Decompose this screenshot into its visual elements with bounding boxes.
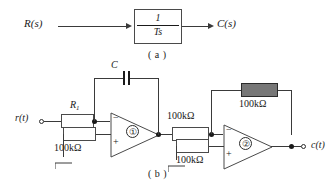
ground-glyph-2 <box>168 165 186 173</box>
input-wire <box>44 121 61 122</box>
ground-symbol-2 <box>168 159 186 177</box>
opamp-1-inverting-sign: − <box>113 112 119 123</box>
part-b-caption: ( b ) <box>148 168 167 179</box>
transfer-numerator: 1 <box>134 13 182 24</box>
ground-symbol-1 <box>55 156 73 174</box>
part-a-input-arrowhead <box>126 23 132 29</box>
figure-container: R(s) 1 Ts C(s) ( a ) r(t) R1 <box>0 0 333 186</box>
opamp-1-number: ① <box>126 125 139 138</box>
transfer-denominator: Ts <box>134 27 182 38</box>
part-b-output-label: c(t) <box>311 139 325 150</box>
stage2-feedback-right-vertical <box>291 90 292 135</box>
part-b-input-label: r(t) <box>15 112 28 123</box>
cap-branch-left-vertical <box>94 78 95 121</box>
part-a-output-label: C(s) <box>217 17 236 29</box>
resistor-stage1-plus-ground-label: 100kΩ <box>54 142 81 153</box>
opamp-2-inverting-sign: − <box>226 124 232 135</box>
part-a-input-wire <box>58 26 126 27</box>
capacitor-label: C <box>111 59 118 70</box>
stage1-ground-vertical <box>63 134 64 157</box>
opamp-2-number: ② <box>239 137 252 150</box>
part-a-input-label: R(s) <box>24 17 42 29</box>
part-a-output-wire <box>182 26 210 27</box>
r1-subscript: 1 <box>76 104 79 111</box>
cap-branch-right-horizontal <box>130 78 159 79</box>
resistor-stage2-feedback <box>241 83 278 97</box>
output-terminal <box>301 144 306 149</box>
resistor-stage1-plus-ground <box>63 127 96 141</box>
resistor-stage2-feedback-label: 100kΩ <box>239 98 266 109</box>
stage2-feedback-right-horizontal <box>278 90 292 91</box>
resistor-r1 <box>61 114 94 128</box>
opamp2-plus-input-wire <box>209 146 224 147</box>
opamp1-plus-input-wire <box>96 134 111 135</box>
ground-glyph-1 <box>55 162 73 170</box>
opamp-2-noninverting-sign: + <box>226 148 232 159</box>
cap-branch-left-horizontal <box>94 78 123 79</box>
opamp-1-noninverting-sign: + <box>113 136 119 147</box>
resistor-stage2-plus-ground <box>176 139 209 153</box>
stage2-feedback-left-horizontal <box>211 90 241 91</box>
output-node <box>289 144 294 149</box>
stage2-ground-vertical <box>176 146 177 160</box>
part-a-transfer-function: 1 Ts <box>134 13 182 37</box>
resistor-r1-label: R1 <box>70 99 80 111</box>
capacitor-plate-left <box>123 71 125 85</box>
part-a-output-arrowhead <box>208 23 214 29</box>
stage2-feedback-left-vertical <box>211 90 212 134</box>
opamp1-output-to-cap-vertical <box>158 121 159 135</box>
output-wire <box>271 146 301 147</box>
resistor-interstage-label: 100kΩ <box>167 110 194 121</box>
part-a-caption: ( a ) <box>148 49 167 60</box>
